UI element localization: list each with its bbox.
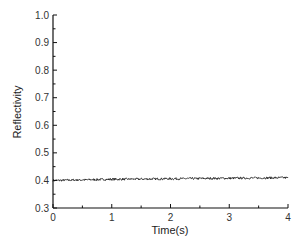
- y-axis: 0.30.40.50.60.70.80.91.0: [35, 10, 57, 214]
- reflectivity-series-line: [53, 177, 288, 182]
- y-tick-label: 0.7: [35, 92, 49, 103]
- y-tick-label: 0.5: [35, 147, 49, 158]
- x-tick-label: 4: [285, 212, 291, 223]
- x-tick-label: 3: [226, 212, 232, 223]
- y-tick-label: 0.6: [35, 120, 49, 131]
- plot-area: [53, 177, 288, 182]
- y-tick-label: 0.9: [35, 37, 49, 48]
- y-tick-label: 0.8: [35, 65, 49, 76]
- x-tick-label: 2: [168, 212, 174, 223]
- x-axis-label: Time(s): [152, 224, 189, 236]
- y-tick-label: 1.0: [35, 10, 49, 21]
- y-tick-label: 0.4: [35, 175, 49, 186]
- y-axis-label: Reflectivity: [11, 85, 23, 139]
- x-tick-label: 0: [50, 212, 56, 223]
- reflectivity-chart: 0.30.40.50.60.70.80.91.0 01234 Time(s) R…: [0, 0, 305, 249]
- x-tick-label: 1: [109, 212, 115, 223]
- x-axis: 01234: [50, 204, 291, 223]
- y-tick-label: 0.3: [35, 203, 49, 214]
